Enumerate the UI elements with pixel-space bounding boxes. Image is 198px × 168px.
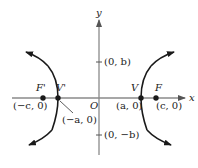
right-branch-lower — [147, 130, 171, 145]
origin-label: O — [90, 100, 98, 111]
left-branch-lower — [29, 130, 52, 145]
x-axis-label: x — [189, 92, 195, 103]
tick-b-label: (0, b) — [104, 56, 131, 67]
focus-left-name: F' — [35, 82, 46, 93]
left-branch-upper — [26, 52, 48, 66]
vertex-left-coord: (−a, 0) — [62, 114, 97, 125]
leader-line — [60, 101, 73, 113]
vertex-left-point — [55, 95, 60, 100]
y-axis-label: y — [95, 7, 102, 18]
vertex-right-coord: (a, 0) — [116, 100, 143, 111]
right-branch-upper — [151, 52, 174, 66]
focus-right-coord: (c, 0) — [156, 100, 182, 111]
focus-left-coord: (−c, 0) — [13, 100, 48, 111]
vertex-left-name: V' — [56, 82, 66, 93]
tick-neg-b-label: (0, −b) — [104, 129, 139, 140]
vertex-right-name: V — [131, 82, 140, 93]
focus-right-name: F — [154, 82, 163, 93]
hyperbola-diagram: y x O (0, b) (0, −b) F' (−c, 0) V' (−a, … — [0, 0, 198, 168]
